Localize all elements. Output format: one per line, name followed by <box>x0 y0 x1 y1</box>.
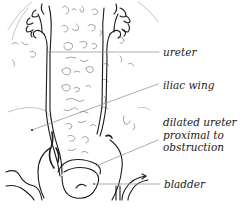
bowel-texture <box>12 6 135 153</box>
label-iliac-wing: iliac wing <box>163 79 214 92</box>
leader-line-dilated-ureter <box>96 140 158 166</box>
label-dilated-ureter-line-2: proximal to <box>163 129 237 142</box>
leader-line-iliac-wing <box>32 84 158 130</box>
label-bladder: bladder <box>164 178 205 191</box>
body-contour-lines <box>8 2 158 124</box>
label-dilated-ureter-line-3: obstruction <box>163 141 237 154</box>
iliac-wing-pointer-dot <box>31 129 33 131</box>
label-dilated-ureter-line-1: dilated ureter <box>163 116 237 129</box>
bladder-outline <box>62 176 120 200</box>
left-kidney <box>26 4 44 38</box>
urinary-tract-diagram: ureter iliac wing dilated ureter proxima… <box>0 0 241 215</box>
bladder-pointer-dot <box>93 183 95 185</box>
label-dilated-ureter: dilated ureter proximal to obstruction <box>163 116 237 154</box>
pelvis <box>6 140 148 200</box>
label-ureter: ureter <box>163 46 196 59</box>
right-ureter <box>97 8 112 138</box>
right-kidney <box>110 4 130 38</box>
